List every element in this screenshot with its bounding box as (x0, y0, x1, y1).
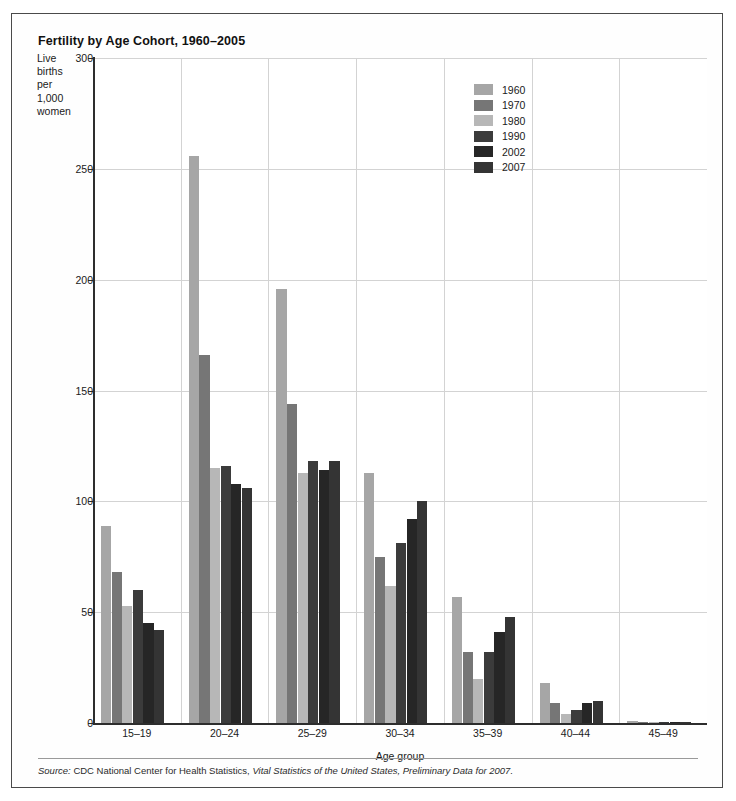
x-axis-title: Age group (93, 750, 707, 762)
bar-1960-15–19 (101, 526, 111, 723)
bar-1960-30–34 (364, 473, 374, 723)
x-tick-label-40–44: 40–44 (561, 727, 590, 739)
legend-item-2007: 2007 (474, 160, 584, 176)
x-tick-label-35–39: 35–39 (473, 727, 502, 739)
bar-1970-25–29 (287, 404, 297, 723)
bar-1960-25–29 (276, 289, 286, 723)
legend-item-1980: 1980 (474, 113, 584, 129)
y-tick-mark (88, 169, 93, 170)
x-tick-label-45–49: 45–49 (649, 727, 678, 739)
legend-item-2002: 2002 (474, 144, 584, 160)
y-tick-mark (88, 280, 93, 281)
gridline-y-150 (93, 391, 707, 392)
y-tick-mark (88, 391, 93, 392)
bar-1990-15–19 (133, 590, 143, 723)
legend-swatch-2007 (474, 162, 493, 173)
source-publisher: CDC National Center for Health Statistic… (71, 765, 253, 776)
bar-1980-25–29 (298, 473, 308, 723)
bar-2002-35–39 (494, 632, 504, 723)
bar-1990-25–29 (308, 461, 318, 723)
gridline-x-20–24 (268, 58, 269, 723)
chart-title: Fertility by Age Cohort, 1960–2005 (38, 34, 245, 48)
bar-1970-30–34 (375, 557, 385, 723)
legend-swatch-1970 (474, 100, 493, 111)
legend-swatch-1990 (474, 131, 493, 142)
y-tick-mark (88, 723, 93, 724)
bar-1990-35–39 (484, 652, 494, 723)
bar-2007-30–34 (417, 501, 427, 723)
legend-label-1970: 1970 (502, 99, 525, 111)
bar-2007-25–29 (329, 461, 339, 723)
bar-1980-30–34 (385, 586, 395, 723)
bar-1960-20–24 (189, 156, 199, 723)
legend-label-2002: 2002 (502, 146, 525, 158)
y-tick-mark (88, 612, 93, 613)
gridline-y-100 (93, 501, 707, 502)
x-tick-label-15–19: 15–19 (122, 727, 151, 739)
gridline-y-250 (93, 169, 707, 170)
bar-1990-40–44 (571, 710, 581, 723)
x-axis-line (93, 723, 707, 725)
bar-2002-20–24 (231, 484, 241, 723)
gridline-x-15–19 (181, 58, 182, 723)
bar-2007-15–19 (154, 630, 164, 723)
bar-chart-plot-area: 050100150200250300 15–1920–2425–2930–343… (93, 58, 707, 723)
y-tick-mark (88, 501, 93, 502)
bar-2002-25–29 (319, 470, 329, 723)
gridline-y-200 (93, 280, 707, 281)
source-label: Source: (38, 765, 71, 776)
legend-swatch-1960 (474, 84, 493, 95)
bar-2002-40–44 (582, 703, 592, 723)
bar-1970-20–24 (199, 355, 209, 723)
y-axis-line (93, 57, 95, 724)
bar-1990-30–34 (396, 543, 406, 723)
legend-item-1970: 1970 (474, 98, 584, 114)
gridline-y-300 (93, 58, 707, 59)
legend-label-1990: 1990 (502, 130, 525, 142)
bar-2002-30–34 (407, 519, 417, 723)
bar-1970-40–44 (550, 703, 560, 723)
source-title-italic: Vital Statistics of the United States, P… (252, 765, 513, 776)
bar-2007-35–39 (505, 617, 515, 723)
footer-divider (38, 758, 698, 759)
legend-label-1980: 1980 (502, 115, 525, 127)
legend-label-1960: 1960 (502, 84, 525, 96)
bar-1990-20–24 (221, 466, 231, 723)
bar-1980-15–19 (122, 606, 132, 723)
legend-swatch-1980 (474, 115, 493, 126)
x-tick-label-20–24: 20–24 (210, 727, 239, 739)
bar-2007-20–24 (242, 488, 252, 723)
legend-swatch-2002 (474, 146, 493, 157)
gridline-x-25–29 (356, 58, 357, 723)
bar-2007-40–44 (593, 701, 603, 723)
legend-item-1960: 1960 (474, 82, 584, 98)
source-note: Source: CDC National Center for Health S… (38, 765, 513, 776)
legend-label-2007: 2007 (502, 161, 525, 173)
y-axis-tick-labels: 050100150200250300 (52, 58, 93, 723)
bar-1980-35–39 (473, 679, 483, 723)
chart-legend: 196019701980199020022007 (474, 82, 584, 175)
legend-item-1990: 1990 (474, 129, 584, 145)
bar-1980-40–44 (561, 714, 571, 723)
x-tick-label-30–34: 30–34 (385, 727, 414, 739)
gridline-x-40–44 (619, 58, 620, 723)
bar-1960-40–44 (540, 683, 550, 723)
scanned-page-frame: Fertility by Age Cohort, 1960–2005 Live … (11, 13, 723, 788)
x-tick-label-25–29: 25–29 (298, 727, 327, 739)
bar-2002-15–19 (143, 623, 153, 723)
gridline-x-30–34 (444, 58, 445, 723)
y-tick-mark (88, 58, 93, 59)
bar-1960-35–39 (452, 597, 462, 723)
bar-1970-15–19 (112, 572, 122, 723)
bar-1970-35–39 (463, 652, 473, 723)
bar-1980-20–24 (210, 468, 220, 723)
